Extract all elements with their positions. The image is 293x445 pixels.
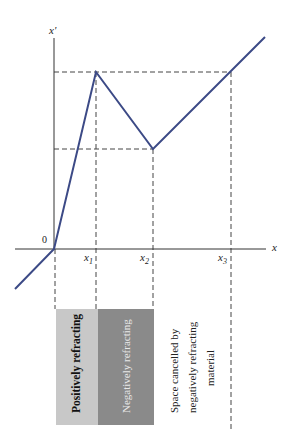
annotation-line-1: Space cancelled by <box>168 329 180 413</box>
positive-refracting-label: Positively refracting <box>70 314 82 413</box>
tick-label-x3: x3 <box>218 251 227 266</box>
annotation-line-3: material <box>204 350 216 386</box>
mapping-plot <box>0 0 293 445</box>
tick-label-x1: x1 <box>84 251 93 266</box>
origin-label: 0 <box>42 234 47 245</box>
negative-refracting-label: Negatively refracting <box>120 319 132 413</box>
tick-label-x2: x2 <box>140 251 149 266</box>
y-axis-label: x' <box>49 24 56 36</box>
annotation-line-2: negatively refracting <box>186 322 198 413</box>
x-axis-label: x <box>272 241 277 253</box>
